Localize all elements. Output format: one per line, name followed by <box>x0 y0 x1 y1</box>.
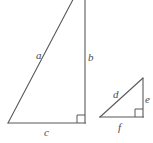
large-triangle-right-angle-marker <box>77 115 85 123</box>
geometry-figure: a b c d e f <box>0 0 153 143</box>
small-right-triangle <box>100 78 144 117</box>
triangles-drawing-canvas <box>0 0 153 143</box>
small-triangle-label-f: f <box>118 122 121 133</box>
small-triangle-label-d: d <box>113 89 119 100</box>
large-triangle-label-a: a <box>36 50 42 61</box>
large-triangle-side-a-hypotenuse <box>8 0 78 123</box>
small-triangle-side-d-hypotenuse <box>100 78 143 117</box>
small-triangle-right-angle-marker <box>135 109 143 117</box>
large-triangle-label-b: b <box>88 52 94 63</box>
large-right-triangle <box>8 0 86 123</box>
small-triangle-label-e: e <box>145 94 150 105</box>
large-triangle-label-c: c <box>44 127 49 138</box>
